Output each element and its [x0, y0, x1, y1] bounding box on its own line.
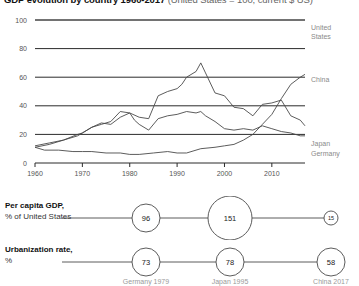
series-label-united-states: States — [311, 33, 331, 40]
chart-y-tick-labels: 204060801000 — [15, 17, 27, 167]
metric-row-per-capita-gdp: Per capita GDP, % of United States 96151… — [0, 196, 359, 240]
bubble-value: 151 — [224, 214, 237, 223]
chart-gridlines — [35, 20, 305, 134]
chart-x-tick-labels: 196019701980199020002010 — [27, 170, 280, 177]
metric-row-urbanization-rate: Urbanization rate, % 737858Germany 1979J… — [0, 240, 359, 284]
bubble-caption: Germany 1979 — [123, 278, 169, 286]
bubble-value: 15 — [328, 215, 334, 221]
x-tick-label-2000: 2000 — [217, 170, 233, 177]
y-tick-label-40: 40 — [19, 102, 27, 109]
x-tick-label-1960: 1960 — [27, 170, 43, 177]
chart-svg: 204060801000 196019701980199020002010 Un… — [0, 8, 359, 193]
series-line-germany — [35, 112, 305, 146]
bubble-value: 96 — [142, 214, 150, 223]
series-label-china: China — [311, 76, 329, 83]
y-tick-label-80: 80 — [19, 45, 27, 52]
y-tick-label-20: 20 — [19, 131, 27, 138]
y-tick-label-0: 0 — [23, 160, 27, 167]
chart-series-labels: UnitedStatesChinaJapanGermany — [311, 24, 340, 158]
page-title-sub: (United States = 100, current $ US) — [168, 0, 313, 5]
page-title-main: GDP evolution by country 1960-2017 — [4, 0, 165, 5]
x-tick-label-1990: 1990 — [169, 170, 185, 177]
bubble-caption: Japan 1995 — [212, 278, 249, 286]
chart-x-axis — [35, 163, 305, 167]
x-tick-label-1970: 1970 — [75, 170, 91, 177]
series-line-china — [35, 74, 305, 154]
x-tick-label-2010: 2010 — [264, 170, 280, 177]
x-tick-label-1980: 1980 — [122, 170, 138, 177]
y-tick-label-100: 100 — [15, 17, 27, 24]
bubble-caption: China 2017 — [313, 278, 349, 285]
series-label-united-states: United — [311, 24, 331, 31]
infographic-page: GDP evolution by country 1960-2017 (Unit… — [0, 0, 359, 286]
bubble-value: 73 — [142, 258, 150, 267]
series-label-germany: Germany — [311, 150, 340, 158]
y-tick-label-60: 60 — [19, 74, 27, 81]
bubble-value: 58 — [327, 258, 335, 267]
page-title: GDP evolution by country 1960-2017 (Unit… — [4, 0, 356, 5]
series-label-japan: Japan — [311, 140, 330, 148]
gdp-evolution-chart: 204060801000 196019701980199020002010 Un… — [0, 8, 359, 193]
urbanization-rate-bubbles: 737858Germany 1979Japan 1995China 2017 — [0, 240, 359, 286]
bubble-value: 78 — [226, 258, 234, 267]
per-capita-gdp-bubbles: 9615115 — [0, 196, 359, 240]
